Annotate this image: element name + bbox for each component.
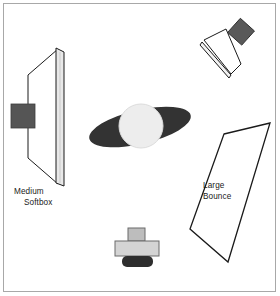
lighting-setup-diagram: Medium Softbox Large Bounce — [0, 0, 280, 296]
subject[interactable] — [86, 99, 195, 156]
camera-lens — [122, 256, 153, 267]
label-medium-softbox-line2: Softbox — [14, 197, 52, 208]
label-large-bounce-line2: Bounce — [203, 191, 231, 202]
softbox-light-head — [11, 104, 35, 128]
medium-softbox[interactable] — [11, 48, 64, 186]
diagram-canvas — [0, 0, 280, 296]
hair-light[interactable] — [200, 18, 254, 78]
subject-head — [119, 104, 163, 148]
label-medium-softbox: Medium Softbox — [14, 186, 52, 208]
label-large-bounce: Large Bounce — [203, 180, 231, 202]
label-medium-softbox-line1: Medium — [14, 187, 44, 196]
camera[interactable] — [115, 228, 159, 267]
camera-body — [115, 241, 159, 256]
label-large-bounce-line1: Large — [203, 181, 224, 190]
camera-viewfinder — [128, 228, 145, 241]
